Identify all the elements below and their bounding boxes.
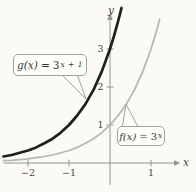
x-axis-arrow-icon <box>174 160 181 166</box>
x-tick-label: 1 <box>148 167 154 178</box>
equals-sign: = <box>139 131 147 142</box>
f-exponent: x <box>158 131 163 140</box>
g-base-value: 3 <box>53 59 60 71</box>
f-function-callout: f(x)=3x <box>117 126 165 146</box>
y-tick-label: 2 <box>97 81 103 92</box>
g-function-callout: g(x)=3x + 1 <box>13 54 87 76</box>
equals-sign: = <box>41 59 50 71</box>
x-tick-label: −2 <box>21 167 35 178</box>
x-tick-label: −1 <box>62 167 76 178</box>
graph-canvas: xy−2−11123 <box>0 0 196 192</box>
x-axis-label: x <box>183 156 189 168</box>
f-function-name: f(x) <box>119 131 136 142</box>
y-axis-label: y <box>107 4 115 16</box>
y-tick-label: 3 <box>97 43 103 54</box>
f-base-value: 3 <box>151 131 157 142</box>
y-tick-label: 1 <box>97 119 103 130</box>
exponential-functions-figure: xy−2−11123 g(x)=3x + 1 f(x)=3x <box>0 0 196 192</box>
callout-tail-g <box>61 74 86 99</box>
curve-g <box>3 8 121 157</box>
g-function-name: g(x) <box>17 59 38 71</box>
g-exponent: x + 1 <box>60 60 83 69</box>
